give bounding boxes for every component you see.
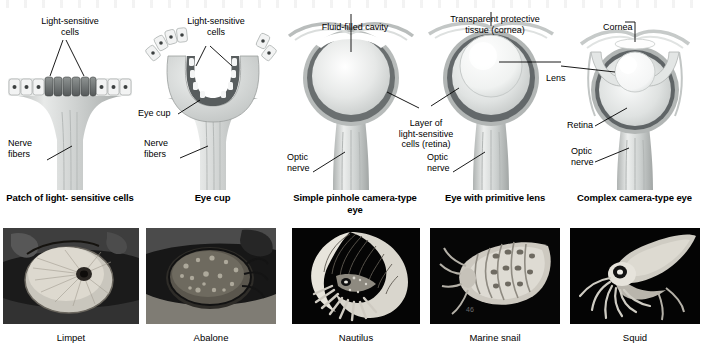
stage-panel-pinhole: Fluid-filled cavity Optic nerve Simple p… (285, 0, 425, 220)
label-lens: Lens (546, 73, 580, 84)
stage-caption-complex: Complex camera-type eye (565, 192, 704, 204)
label-nerve-fibers: Nerve fibers (144, 138, 188, 159)
label-retina: Retina (567, 120, 613, 131)
animal-photo-marine-snail: 46 (430, 228, 560, 324)
mollusc-eye-evolution-figure: Light-sensitive cells Nerve fibers Patch… (0, 0, 704, 355)
photo-caption-abalone: Abalone (146, 332, 276, 343)
stage-caption-primitive-lens: Eye with primitive lens (425, 192, 565, 204)
label-light-sensitive-cells: Light-sensitive cells (158, 16, 274, 37)
label-optic-nerve-text: Optic nerve (427, 152, 471, 173)
label-cornea-transparent-tissue: Transparent protective tissue (cornea) (413, 14, 577, 35)
photo-caption-nautilus: Nautilus (292, 332, 420, 343)
stage-panel-complex: Cornea Retina Optic nerve Complex camera… (565, 0, 704, 220)
label-light-sensitive-cells: Light-sensitive cells (10, 16, 130, 37)
stage-caption-patch: Patch of light- sensitive cells (0, 192, 140, 204)
label-nerve-fibers: Nerve fibers (8, 138, 58, 159)
label-retina-layer: Layer of light-sensitive cells (retina) (378, 118, 474, 150)
stage-panel-eye-cup: Light-sensitive cells Eye cup Nerve fibe… (140, 0, 285, 220)
label-fluid-filled-cavity: Fluid-filled cavity (281, 22, 429, 33)
animal-photo-squid (570, 228, 700, 324)
label-eye-cup: Eye cup (138, 108, 182, 119)
stage-caption-eye-cup: Eye cup (140, 192, 285, 204)
photo-caption-marine-snail: Marine snail (430, 332, 560, 343)
svg-text:46: 46 (466, 306, 474, 313)
label-optic-nerve: Optic nerve (287, 152, 331, 173)
stage-panel-primitive-lens: Transparent protective tissue (cornea) L… (425, 0, 565, 220)
animal-photo-limpet (3, 228, 139, 324)
animal-photo-nautilus (292, 228, 420, 324)
photo-caption-limpet: Limpet (3, 332, 139, 343)
label-cornea: Cornea (603, 22, 663, 33)
animal-photo-abalone (146, 228, 276, 324)
stage-panel-patch: Light-sensitive cells Nerve fibers Patch… (0, 0, 140, 220)
photo-caption-squid: Squid (570, 332, 700, 343)
label-optic-nerve: Optic nerve (571, 146, 615, 167)
stage-caption-pinhole: Simple pinhole camera-type eye (285, 192, 425, 215)
